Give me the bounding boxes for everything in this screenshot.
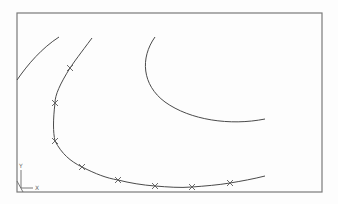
fit-point-spline[interactable] — [54, 38, 266, 187]
ucs-x-label: X — [35, 184, 39, 191]
x-mark-icon[interactable] — [67, 65, 73, 71]
drawing-viewport[interactable]: Y X — [0, 0, 338, 204]
drawing-canvas[interactable]: Y X — [0, 0, 338, 204]
ucs-icon: Y X — [17, 162, 39, 192]
ucs-y-label: Y — [18, 162, 23, 169]
viewport-frame — [17, 13, 322, 192]
x-mark-icon[interactable] — [79, 164, 85, 170]
upper-left-arc[interactable] — [17, 37, 59, 80]
fit-point-markers — [52, 65, 233, 190]
middle-spline[interactable] — [145, 37, 265, 122]
ucs-origin-tick — [17, 181, 23, 192]
